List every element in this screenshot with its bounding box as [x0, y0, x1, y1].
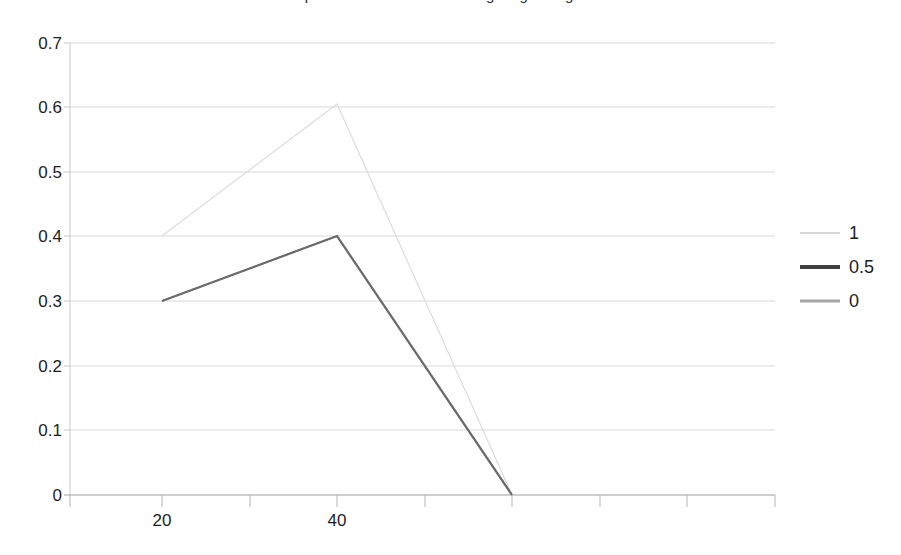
- y-axis-ticks: [64, 43, 70, 495]
- legend-swatch-icon-0.5: [800, 261, 840, 273]
- x-axis-ticks: [70, 495, 775, 507]
- series-line-1: [162, 104, 512, 495]
- legend-item-1[interactable]: 1: [800, 216, 895, 250]
- x-tick-label-40: 40: [328, 512, 347, 529]
- legend-item-0.5[interactable]: 0.5: [800, 250, 895, 284]
- gridlines: [70, 43, 775, 430]
- legend-swatch-icon-1: [800, 227, 840, 239]
- legend-label-0: 0: [849, 292, 859, 310]
- legend-label-1: 1: [849, 224, 859, 242]
- chart-legend: 1 0.5 0: [800, 216, 895, 318]
- line-chart: Comparison of the different weighting co…: [0, 0, 901, 555]
- plot-area: [0, 0, 901, 555]
- legend-label-0.5: 0.5: [849, 258, 874, 276]
- legend-item-0[interactable]: 0: [800, 284, 895, 318]
- x-tick-label-20: 20: [153, 512, 172, 529]
- legend-swatch-icon-0: [800, 295, 840, 307]
